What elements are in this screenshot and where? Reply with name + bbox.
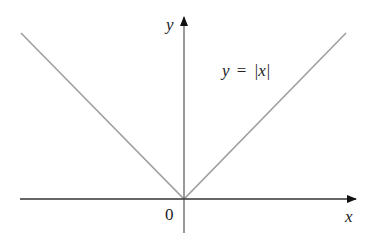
equation-rhs: |x| xyxy=(254,61,271,80)
equation-lhs: y xyxy=(220,61,230,80)
equation-eq: = xyxy=(237,61,247,80)
abs-value-graph: y x 0 y = |x| xyxy=(0,0,374,247)
equation-annotation: y = |x| xyxy=(220,61,271,80)
origin-label: 0 xyxy=(165,205,174,224)
x-axis-label: x xyxy=(344,207,353,226)
y-axis-label: y xyxy=(164,15,174,34)
